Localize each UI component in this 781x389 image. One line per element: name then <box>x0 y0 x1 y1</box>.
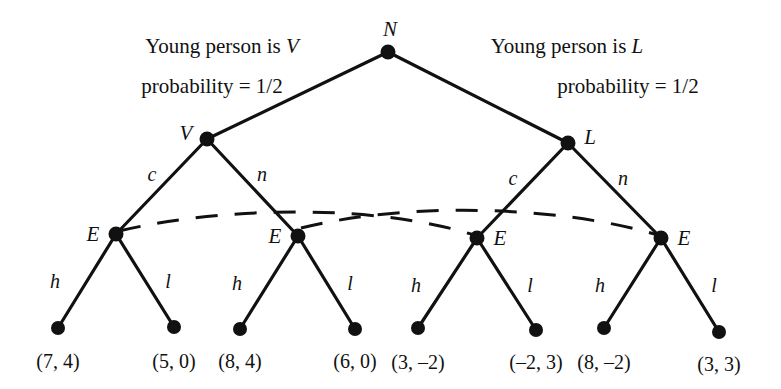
edge-V-E2-line <box>207 139 298 236</box>
terminal-dot-T8[interactable] <box>712 325 726 339</box>
edge-E2-T3-line <box>240 236 298 329</box>
terminal-dot-T1[interactable] <box>51 321 65 335</box>
payoff-labels-group: (7, 4) (5, 0) (8, 4) (6, 0) (3, –2) (–2,… <box>36 350 740 376</box>
action-label-E3-h: h <box>411 274 421 296</box>
node-dot-L[interactable] <box>561 136 576 151</box>
terminal-dot-T3[interactable] <box>233 322 247 336</box>
action-label-E1-h: h <box>50 270 60 292</box>
game-tree-figure: N V L E E E E c n c n h l h l h l h l (7… <box>0 0 781 389</box>
chance-branch-L-line1-text: Young person is <box>491 34 632 58</box>
chance-branch-L-line2: probability = 1/2 <box>557 74 698 98</box>
payoff-label-T4: (6, 0) <box>333 350 376 373</box>
chance-branch-L-line1-var: L <box>631 34 644 58</box>
payoff-label-T3: (8, 4) <box>218 350 261 373</box>
node-dot-E2[interactable] <box>291 229 306 244</box>
node-label-E2: E <box>268 224 282 248</box>
action-label-E1-l: l <box>165 270 171 292</box>
action-label-V-n: n <box>257 163 267 185</box>
terminal-dot-T7[interactable] <box>597 321 611 335</box>
edge-V-E1-line <box>116 139 207 234</box>
node-dot-N[interactable] <box>381 45 396 60</box>
payoff-label-T2: (5, 0) <box>152 350 195 373</box>
node-label-V: V <box>180 121 195 145</box>
node-label-E1: E <box>86 222 100 246</box>
terminal-dot-T6[interactable] <box>529 323 543 337</box>
action-label-L-n: n <box>618 167 628 189</box>
node-label-N: N <box>382 17 398 41</box>
node-dot-E1[interactable] <box>109 227 124 242</box>
payoff-label-T6: (–2, 3) <box>509 351 562 374</box>
payoff-label-T7: (8, –2) <box>577 351 630 374</box>
node-label-L: L <box>583 125 596 149</box>
information-sets-group <box>119 210 658 235</box>
chance-branch-L-line1: Young person is L <box>491 34 644 58</box>
payoff-label-T5: (3, –2) <box>391 351 444 374</box>
chance-annotations-group: Young person is V probability = 1/2 Youn… <box>141 34 698 98</box>
edge-E1-T1-line <box>58 234 116 328</box>
edge-L-E3-line <box>477 143 568 238</box>
action-label-E2-l: l <box>347 272 353 294</box>
edge-N-L-line <box>388 52 568 143</box>
node-label-E4: E <box>677 226 691 250</box>
action-label-V-c: c <box>148 163 157 185</box>
payoff-label-T1: (7, 4) <box>36 350 79 373</box>
action-label-L-c: c <box>509 167 518 189</box>
edge-E3-T5-line <box>418 238 477 328</box>
action-label-E3-l: l <box>527 274 533 296</box>
edge-E4-T7-line <box>604 238 661 328</box>
action-labels-group: c n c n h l h l h l h l <box>50 163 717 296</box>
chance-branch-V-line1-var: V <box>286 34 301 58</box>
payoff-label-T8: (3, 3) <box>697 353 740 376</box>
action-label-E4-h: h <box>595 274 605 296</box>
chance-branch-V-line2: probability = 1/2 <box>141 74 282 98</box>
chance-branch-V-line1-text: Young person is <box>145 34 286 58</box>
terminal-dot-T2[interactable] <box>167 320 181 334</box>
node-dot-E4[interactable] <box>654 231 669 246</box>
action-label-E4-l: l <box>711 274 717 296</box>
terminal-dot-T5[interactable] <box>411 321 425 335</box>
node-dot-V[interactable] <box>200 132 215 147</box>
action-label-E2-h: h <box>232 272 242 294</box>
node-label-E3: E <box>493 226 507 250</box>
terminal-dot-T4[interactable] <box>348 322 362 336</box>
game-tree-svg: N V L E E E E c n c n h l h l h l h l (7… <box>0 0 781 389</box>
node-dot-E3[interactable] <box>470 231 485 246</box>
chance-branch-V-line1: Young person is V <box>145 34 301 58</box>
